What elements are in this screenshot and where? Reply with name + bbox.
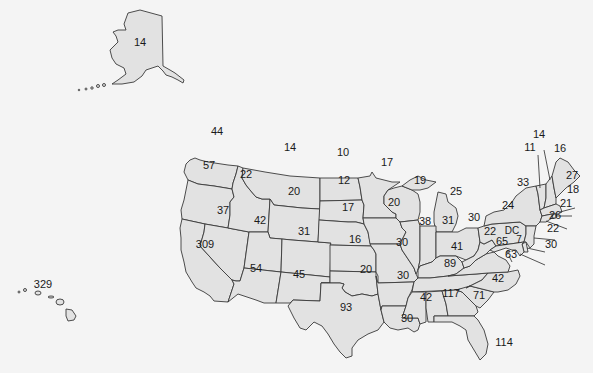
- label-missouri: 30: [396, 236, 408, 248]
- label-tennessee: 89: [444, 257, 456, 269]
- state-hawaii[interactable]: [18, 289, 76, 322]
- label-utah: 42: [254, 214, 266, 226]
- label-mississippi: 42: [420, 291, 432, 303]
- label-california: 309: [196, 238, 214, 250]
- label-colorado: 31: [298, 225, 310, 237]
- label-nevada: 37: [217, 204, 229, 216]
- label-pennsylvania: 24: [502, 199, 514, 211]
- label-north-carolina: 63: [505, 248, 517, 260]
- label-hawaii: 329: [34, 278, 52, 290]
- label-south-dakota: 12: [338, 174, 350, 186]
- label-massachusetts: 27: [566, 169, 578, 181]
- label-maine: 16: [554, 142, 566, 154]
- label-minnesota: 17: [381, 156, 393, 168]
- label-nebraska: 17: [342, 201, 354, 213]
- label-louisiana: 30: [401, 312, 413, 324]
- label-delaware: 22: [547, 222, 559, 234]
- label-virginia: 65: [496, 235, 508, 247]
- label-new-hampshire: 14: [533, 128, 545, 140]
- label-michigan: 25: [450, 185, 462, 197]
- label-idaho: 22: [240, 168, 252, 180]
- label-kansas: 16: [349, 233, 361, 245]
- label-wisconsin: 19: [414, 174, 426, 186]
- label-georgia: 71: [473, 289, 485, 301]
- label-connecticut: 21: [560, 197, 572, 209]
- label-maryland: 30: [545, 238, 557, 250]
- label-montana: 14: [284, 141, 296, 153]
- label-rhode-island: 18: [567, 183, 579, 195]
- label-indiana: 31: [442, 214, 454, 226]
- label-oklahoma: 20: [360, 263, 372, 275]
- label-kentucky: 41: [451, 240, 463, 252]
- label-dc-value: 7: [516, 234, 522, 245]
- label-arizona: 54: [250, 262, 262, 274]
- label-iowa: 20: [388, 196, 400, 208]
- state-alaska[interactable]: [78, 10, 184, 91]
- label-oregon: 57: [203, 159, 215, 171]
- label-south-carolina: 42: [492, 272, 504, 284]
- label-illinois: 38: [419, 215, 431, 227]
- label-new-mexico: 45: [293, 268, 305, 280]
- state-nebraska[interactable]: [318, 220, 371, 246]
- label-alabama: 117: [442, 287, 460, 299]
- label-new-york: 33: [517, 176, 529, 188]
- label-alaska: 14: [134, 36, 146, 48]
- label-west-virginia: 22: [484, 225, 496, 237]
- label-new-jersey: 26: [549, 209, 561, 221]
- state-florida[interactable]: [434, 316, 488, 360]
- state-colorado[interactable]: [281, 239, 331, 277]
- label-ohio: 30: [468, 211, 480, 223]
- label-florida: 114: [495, 336, 513, 348]
- label-wyoming: 20: [288, 185, 300, 197]
- label-texas: 93: [340, 301, 352, 313]
- label-washington: 44: [211, 125, 223, 137]
- label-vermont: 11: [524, 141, 535, 153]
- label-north-dakota: 10: [337, 146, 349, 158]
- us-map: 14 329 44 57 309 22 37 14 20 42 54 31 45…: [0, 0, 593, 373]
- label-arkansas: 30: [397, 269, 409, 281]
